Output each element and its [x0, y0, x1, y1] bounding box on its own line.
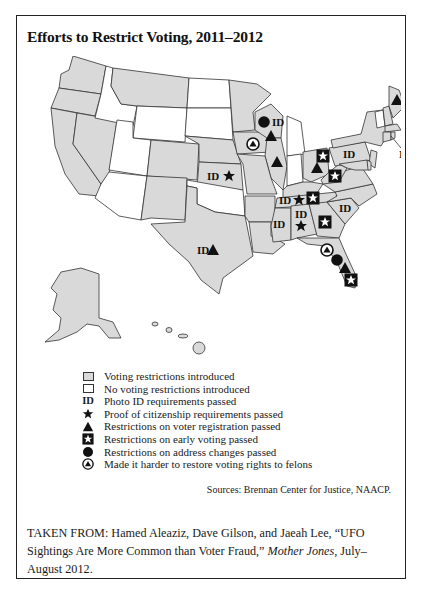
state-ar	[245, 196, 275, 222]
svg-text:ID: ID	[207, 170, 219, 182]
citation: TAKEN FROM: Hamed Aleaziz, Dave Gilson, …	[27, 524, 397, 578]
state-ma	[385, 124, 401, 132]
legend-item-felons: Made it harder to restore voting rights …	[81, 458, 312, 471]
figure-title: Efforts to Restrict Voting, 2011–2012	[27, 28, 263, 46]
legend-label: Restrictions on address changes passed	[104, 446, 276, 459]
us-map: ID ID ID ID ID ID	[21, 56, 401, 376]
svg-text:ID: ID	[273, 218, 285, 230]
map-legend: Voting restrictions introduced No voting…	[81, 370, 312, 471]
unrestricted-swatch-icon	[81, 383, 95, 395]
star-icon	[81, 408, 95, 420]
legend-item-early-voting: Restrictions on early voting passed	[81, 433, 312, 446]
circle-icon	[81, 446, 95, 458]
boxed-star-icon	[81, 433, 95, 445]
legend-label: No voting restrictions introduced	[104, 383, 250, 396]
legend-label: Voting restrictions introduced	[104, 370, 235, 383]
state-mi	[287, 116, 305, 156]
state-de	[367, 160, 371, 170]
state-mt	[111, 68, 189, 108]
legend-item-citizenship: Proof of citizenship requirements passed	[81, 408, 312, 421]
svg-text:ID: ID	[343, 148, 355, 160]
svg-text:ID: ID	[399, 148, 401, 160]
state-in	[287, 154, 303, 186]
state-sd	[185, 108, 233, 140]
svg-text:ID: ID	[272, 116, 284, 128]
citation-publication: Mother Jones	[268, 544, 335, 558]
figure-frame: Efforts to Restrict Voting, 2011–2012	[16, 15, 406, 579]
legend-label: Restrictions on early voting passed	[104, 433, 258, 446]
state-ak	[45, 268, 121, 342]
photo-id-icon: ID	[81, 395, 95, 407]
restricted-swatch-icon	[81, 370, 95, 382]
legend-label: Made it harder to restore voting rights …	[104, 458, 312, 471]
triangle-icon	[81, 421, 95, 433]
sources-note: Sources: Brennan Center for Justice, NAA…	[207, 484, 391, 495]
svg-text:ID: ID	[295, 208, 307, 220]
legend-label: Restrictions on voter registration passe…	[104, 420, 281, 433]
legend-item-address: Restrictions on address changes passed	[81, 446, 312, 459]
state-wy	[133, 106, 187, 142]
legend-item-restricted: Voting restrictions introduced	[81, 370, 312, 383]
svg-text:ID: ID	[339, 202, 351, 214]
legend-label: Photo ID requirements passed	[104, 395, 236, 408]
state-wa	[59, 56, 106, 94]
svg-text:ID: ID	[279, 194, 291, 206]
state-nm	[141, 176, 187, 220]
legend-item-unrestricted: No voting restrictions introduced	[81, 383, 312, 396]
legend-label: Proof of citizenship requirements passed	[104, 408, 283, 421]
state-ct	[383, 132, 391, 142]
legend-item-photo-id: ID Photo ID requirements passed	[81, 395, 312, 408]
state-co	[147, 140, 199, 180]
circled-triangle-icon	[81, 458, 95, 470]
state-nd	[187, 78, 231, 108]
legend-item-registration: Restrictions on voter registration passe…	[81, 420, 312, 433]
state-hi	[152, 322, 205, 354]
